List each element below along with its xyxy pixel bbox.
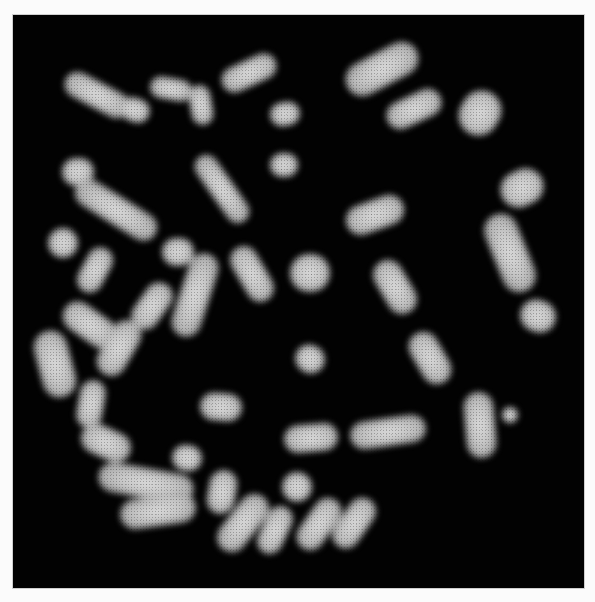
chromosome [190, 150, 254, 228]
chromosome [48, 228, 78, 258]
chromosome [225, 241, 279, 307]
chromosome [382, 84, 446, 134]
chromosome [282, 472, 312, 502]
chromosome [290, 254, 330, 292]
chromosome [187, 83, 216, 126]
chromosome [462, 391, 498, 459]
chromosome [502, 407, 518, 423]
chromosome [516, 295, 561, 337]
chromosome [70, 174, 163, 246]
chromosome [217, 49, 281, 97]
chromosome [30, 327, 80, 401]
chromosome [283, 422, 339, 455]
micrograph-panel [13, 15, 584, 588]
chromosome [199, 391, 243, 423]
chromosome [368, 254, 423, 319]
chromosome [268, 100, 302, 129]
chromosome [170, 443, 204, 474]
chromosome [270, 153, 298, 177]
chromosome [348, 413, 427, 451]
chromosome [494, 162, 549, 213]
chromosome-spread [13, 15, 584, 588]
chromosome [290, 339, 331, 379]
chromosome [342, 191, 409, 240]
chromosome [403, 326, 457, 389]
chromosome [340, 36, 425, 103]
chromosome [74, 378, 108, 430]
chromosome [72, 243, 117, 298]
chromosome [148, 75, 193, 104]
chromosome [118, 491, 197, 531]
chromosome [479, 209, 541, 298]
chromosome [451, 83, 509, 143]
